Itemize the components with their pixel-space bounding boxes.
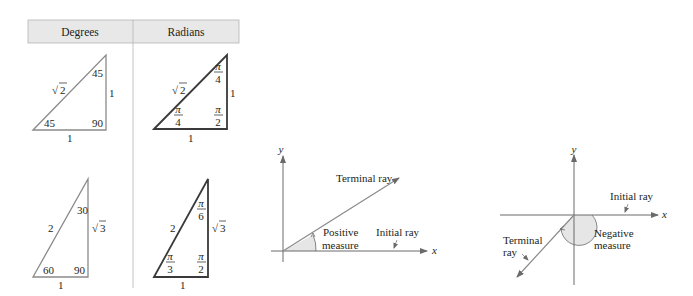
measure-label-1: Negative (594, 227, 634, 239)
negative-angle-diagram: y x Initial ray Negative measure Termina… (500, 143, 667, 285)
terminal-ray (517, 215, 574, 277)
angle-right-den: 2 (198, 263, 204, 275)
angle-right-num: π (215, 103, 221, 115)
hyp-label: 2 (180, 84, 186, 96)
y-label: y (278, 143, 284, 155)
angle-left-num: π (175, 103, 181, 115)
measure-label-1: Positive (323, 226, 359, 238)
angle-top-num: π (215, 60, 221, 72)
angle-top-num: π (198, 197, 204, 209)
leg-bottom: 1 (180, 279, 186, 291)
sqrt-symbol: √ (92, 222, 99, 234)
triangle-radians-45: √ 2 π 4 1 π 4 π 2 1 (154, 55, 236, 144)
triangle-radians-30-60: π 6 2 √ 3 π 3 π 2 1 (154, 179, 226, 291)
angle-left-num: π (167, 250, 173, 262)
angle-right-den: 2 (215, 116, 221, 128)
leg-bottom: 1 (67, 132, 73, 144)
angle-right: 90 (92, 117, 104, 129)
y-label: y (571, 143, 577, 155)
angle-left: 45 (44, 117, 56, 129)
leg-bottom: 1 (188, 132, 194, 144)
hyp-label: 2 (60, 84, 66, 96)
hyp-label: 2 (48, 222, 54, 234)
measure-label-2: measure (322, 239, 359, 251)
hyp-label: 2 (170, 222, 176, 234)
sqrt-symbol: √ (172, 84, 179, 96)
terminal-ray-label: Terminal ray (336, 172, 393, 184)
table-header: Degrees Radians (28, 20, 239, 43)
sqrt-symbol: √ (52, 84, 59, 96)
angle-top-den: 4 (215, 73, 221, 85)
initial-ray-label: Initial ray (376, 226, 420, 238)
terminal-ray-label-2: ray (503, 246, 518, 258)
header-radians: Radians (167, 26, 205, 38)
leg-right: 1 (109, 87, 115, 99)
triangle-degrees-30-60: 30 2 √ 3 60 90 1 (33, 179, 106, 291)
angle-left-den: 4 (175, 116, 181, 128)
leg-right: 3 (100, 222, 106, 234)
measure-label-2: measure (594, 239, 631, 251)
positive-angle-diagram: y x Terminal ray Initial ray Positive me… (271, 143, 437, 262)
leg-right: 1 (230, 87, 236, 99)
angle-right-num: π (198, 250, 204, 262)
x-label: x (431, 244, 437, 256)
terminal-ray-label-1: Terminal (503, 234, 543, 246)
angle-top: 45 (92, 67, 104, 79)
angle-left-den: 3 (167, 263, 173, 275)
angle-right: 90 (74, 264, 86, 276)
angle-figures: Degrees Radians √ 2 45 1 45 90 1 √ 2 π 4… (0, 0, 693, 296)
leg-right: 3 (220, 222, 226, 234)
initial-ray-label: Initial ray (610, 190, 654, 202)
triangle-degrees-45: √ 2 45 1 45 90 1 (33, 55, 115, 144)
angle-left: 60 (43, 264, 55, 276)
leg-bottom: 1 (58, 279, 64, 291)
x-label: x (661, 208, 667, 220)
sqrt-symbol: √ (212, 222, 219, 234)
angle-top-den: 6 (198, 210, 204, 222)
header-degrees: Degrees (61, 26, 99, 39)
angle-top: 30 (77, 204, 89, 216)
